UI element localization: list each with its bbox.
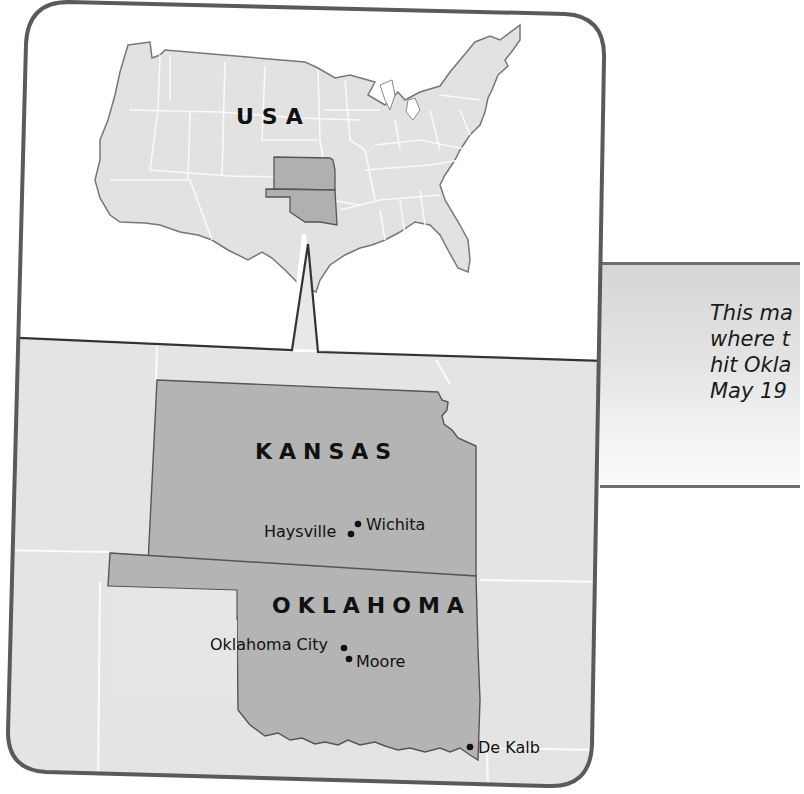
moore-dot [346,656,353,663]
oklahoma-label: OKLAHOMA [272,593,471,618]
kansas-label: KANSAS [255,439,398,464]
wichita-dot [355,521,362,528]
city-label-haysville: Haysville [264,522,336,541]
de-kalb-dot [467,744,474,751]
usa-label: USA [236,104,311,129]
oklahoma-city-dot [341,645,348,652]
haysville-dot [348,531,355,538]
city-label-oklahoma-city: Oklahoma City [210,635,328,654]
city-label-de-kalb: De Kalb [478,738,540,757]
city-label-wichita: Wichita [366,515,425,534]
kansas-shape [148,380,476,576]
city-label-moore: Moore [356,652,405,671]
detail-map: KANSAS OKLAHOMA Wichita Haysville Oklaho… [0,338,640,794]
